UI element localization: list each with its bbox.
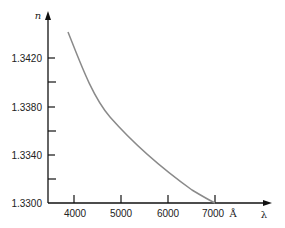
x-tick-label: 5000 — [110, 208, 133, 219]
x-axis-label: λ — [261, 209, 268, 220]
y-tick-label: 1.3340 — [11, 150, 42, 161]
y-tick-label: 1.3380 — [11, 102, 42, 113]
y-axis-label: n — [35, 10, 41, 21]
x-tick-label: 7000 — [202, 208, 225, 219]
x-axis-arrow-icon — [263, 200, 272, 206]
x-unit-label: Å — [228, 208, 237, 219]
y-axis-arrow-icon — [45, 11, 51, 20]
x-tick-label: 6000 — [157, 208, 180, 219]
refractive-index-curve — [68, 32, 215, 203]
y-tick-label: 1.3420 — [11, 53, 42, 64]
y-tick-label: 1.3300 — [11, 198, 42, 209]
chart: 1.3420 1.3380 1.3340 1.3300 4000 5000 60… — [0, 0, 285, 228]
x-tick-label: 4000 — [64, 208, 87, 219]
